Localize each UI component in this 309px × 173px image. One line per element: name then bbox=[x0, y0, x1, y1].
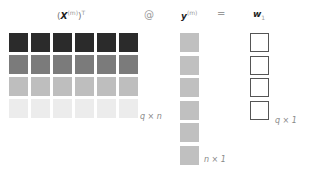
matrix-cell bbox=[9, 55, 28, 74]
vector-w-cell bbox=[250, 56, 269, 75]
matrix-cell bbox=[31, 77, 50, 96]
matrix-cell bbox=[31, 99, 50, 118]
matrix-cell bbox=[75, 55, 94, 74]
vector-w-subscript: 1 bbox=[261, 14, 265, 21]
vector-y-cell bbox=[180, 56, 199, 75]
vector-y-superscript: (m) bbox=[187, 9, 198, 16]
vector-w-cell bbox=[250, 33, 269, 52]
matrix-label: (X(m))T bbox=[57, 9, 85, 21]
matrix-cell bbox=[9, 77, 28, 96]
vector-w-label: w1 bbox=[253, 9, 265, 21]
matrix-cell bbox=[53, 33, 72, 52]
vector-y-cell bbox=[180, 33, 199, 52]
matrix-cell bbox=[97, 77, 116, 96]
matrix-cell bbox=[97, 55, 116, 74]
matrix-cell bbox=[9, 33, 28, 52]
matrix-cell bbox=[119, 33, 138, 52]
matrix-cell bbox=[31, 33, 50, 52]
matrix-cell bbox=[75, 33, 94, 52]
vector-w-dimension-label: q × 1 bbox=[275, 116, 297, 125]
matrix-cell bbox=[97, 99, 116, 118]
equals-operator: = bbox=[217, 8, 225, 19]
matrix-dimension-label: q × n bbox=[140, 112, 162, 121]
vector-y-cell bbox=[180, 146, 199, 165]
vector-w-cell bbox=[250, 101, 269, 120]
vector-y-label: y(m) bbox=[181, 9, 197, 21]
transpose-mark: T bbox=[82, 9, 86, 16]
matrix-cell bbox=[75, 77, 94, 96]
matrix-cell bbox=[97, 33, 116, 52]
vector-y-dimension-label: n × 1 bbox=[204, 155, 226, 164]
vector-y-cell bbox=[180, 123, 199, 142]
vector-y-cell bbox=[180, 78, 199, 97]
matrix-cell bbox=[31, 55, 50, 74]
matrix-superscript: (m) bbox=[67, 9, 78, 16]
matrix-cell bbox=[53, 55, 72, 74]
vector-y-cell bbox=[180, 101, 199, 120]
matrix-cell bbox=[119, 55, 138, 74]
matrix-cell bbox=[119, 99, 138, 118]
matmul-operator: @ bbox=[144, 9, 154, 20]
matrix-cell bbox=[119, 77, 138, 96]
matrix-cell bbox=[9, 99, 28, 118]
matrix-cell bbox=[53, 99, 72, 118]
matrix-cell bbox=[75, 99, 94, 118]
vector-w-cell bbox=[250, 78, 269, 97]
matrix-cell bbox=[53, 77, 72, 96]
